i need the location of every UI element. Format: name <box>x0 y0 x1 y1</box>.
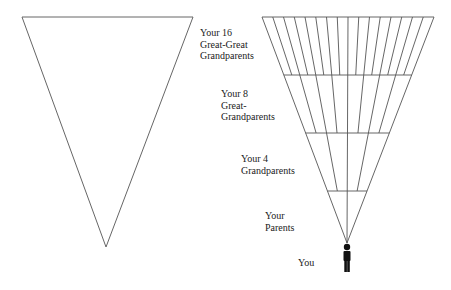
person-icon <box>344 244 351 272</box>
label-grandparents: Your 4 Grandparents <box>241 153 295 176</box>
label-parents: Your Parents <box>265 210 294 233</box>
left-triangle <box>22 17 193 247</box>
label-you: You <box>298 257 314 269</box>
label-great-great-grandparents: Your 16 Great-Great Grandparents <box>200 27 254 62</box>
label-great-grandparents: Your 8 Great- Grandparents <box>221 88 275 123</box>
